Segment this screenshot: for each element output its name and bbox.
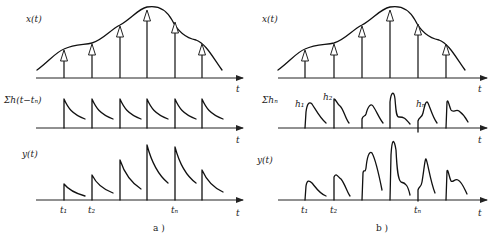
- label-y-t: y(t): [256, 155, 273, 165]
- arrow-head-icon: [172, 22, 179, 33]
- panel-a-output-signal: y(t) t₁ t₂ tₙ t: [21, 145, 243, 218]
- panel-a: x(t) t Σh(t−tₙ) t: [3, 7, 243, 233]
- axis-label-t: t: [236, 208, 240, 218]
- arrow-head-icon: [359, 26, 366, 37]
- tick-label-t1: t₁: [60, 205, 67, 215]
- axis-label-t: t: [478, 135, 482, 145]
- label-x-t: x(t): [262, 14, 278, 24]
- tick-label-tn: tₙ: [171, 205, 179, 215]
- panel-b-input-signal: x(t) t: [262, 7, 487, 94]
- axis-label-t: t: [236, 84, 240, 94]
- panel-b-output-signal: y(t) t₁ t₂ tₙ t: [256, 142, 487, 218]
- convolution-diagram: x(t) t Σh(t−tₙ) t: [0, 0, 492, 238]
- arrow-head-icon: [443, 44, 450, 55]
- arrow-head-icon: [302, 50, 309, 61]
- tick-label-tn: tₙ: [414, 205, 422, 215]
- pulse-label-h2: h₂: [323, 92, 333, 102]
- arrow-head-icon: [144, 10, 151, 21]
- tick-label-t1: t₁: [301, 205, 308, 215]
- panel-a-input-signal: x(t) t: [26, 7, 243, 94]
- arrow-head-icon: [89, 44, 96, 55]
- panel-b: x(t) t Σhₙ t h₁ h₂ hₙ: [256, 7, 487, 233]
- panel-caption-b: b ): [376, 223, 388, 233]
- axis-label-t: t: [236, 135, 240, 145]
- axis-label-t: t: [478, 84, 482, 94]
- tick-label-t2: t₂: [88, 205, 96, 215]
- label-sum-hn: Σhₙ: [261, 95, 278, 105]
- arrow-head-icon: [61, 50, 68, 61]
- tick-label-t2: t₂: [330, 205, 338, 215]
- arrow-head-icon: [331, 44, 338, 55]
- label-sum-h: Σh(t−tₙ): [3, 95, 42, 105]
- arrow-head-icon: [387, 10, 394, 21]
- label-y-t: y(t): [21, 149, 38, 159]
- axis-label-t: t: [478, 208, 482, 218]
- pulse-label-h1: h₁: [295, 99, 304, 109]
- panel-b-impulse-responses: Σhₙ t h₁ h₂ hₙ: [261, 92, 487, 145]
- arrow-head-icon: [117, 26, 124, 37]
- panel-caption-a: a ): [153, 223, 165, 233]
- label-x-t: x(t): [26, 14, 42, 24]
- panel-a-impulse-responses: Σh(t−tₙ) t: [3, 95, 243, 145]
